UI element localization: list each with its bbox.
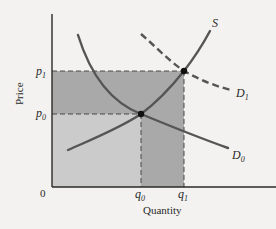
q0-label: q0 [135, 187, 145, 203]
shade-quantity-increase-area [141, 114, 184, 187]
equilibrium-point-e0 [138, 111, 144, 117]
y-axis-title: Price [13, 82, 25, 105]
supply-demand-diagram: S D1 D0 p1 p0 q0 q1 0 Quantity Price [0, 0, 276, 229]
q1-label: q1 [178, 187, 188, 203]
p0-label: p0 [35, 106, 46, 122]
d0-curve-label: D0 [231, 148, 245, 164]
shade-initial-revenue [52, 114, 141, 187]
x-axis-title: Quantity [143, 204, 182, 216]
origin-label: 0 [40, 187, 46, 199]
equilibrium-point-e1 [181, 68, 187, 74]
p1-label: p1 [35, 64, 46, 80]
supply-curve-label: S [212, 16, 218, 30]
d1-curve-label: D1 [235, 86, 249, 102]
